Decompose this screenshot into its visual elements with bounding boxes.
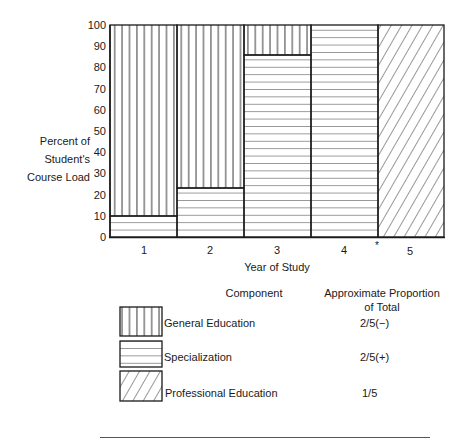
bar-segment-specialization bbox=[244, 55, 311, 237]
legend-proportion: 2/5(+) bbox=[360, 351, 389, 363]
y-label-line-3: Course Load bbox=[27, 171, 90, 183]
y-tick: 10 bbox=[94, 210, 106, 222]
legend-label: General Education bbox=[164, 317, 255, 329]
legend-header-proportion-line-1: Approximate Proportion bbox=[324, 287, 440, 299]
legend-entry-specialization: Specialization 2/5(+) bbox=[120, 341, 389, 367]
x-tick: 1 bbox=[141, 244, 147, 256]
legend-label: Specialization bbox=[164, 351, 232, 363]
bars bbox=[110, 25, 444, 237]
bar-segment-specialization bbox=[110, 216, 177, 237]
chart-figure: Percent of Student's Course Load 0 10 20… bbox=[0, 0, 456, 441]
legend-header-proportion-line-2: of Total bbox=[364, 301, 399, 313]
y-tick: 100 bbox=[88, 19, 106, 31]
legend-header-component: Component bbox=[226, 287, 283, 299]
bar-segment-professional-education bbox=[378, 25, 444, 237]
y-tick: 50 bbox=[94, 125, 106, 137]
legend-proportion: 2/5(−) bbox=[360, 317, 389, 329]
bar-segment-general-education bbox=[110, 25, 177, 216]
y-tick: 90 bbox=[94, 40, 106, 52]
y-tick: 20 bbox=[94, 189, 106, 201]
x-tick: 4 bbox=[341, 244, 347, 256]
bar-year-2 bbox=[177, 25, 244, 237]
legend: Component Approximate Proportion of Tota… bbox=[120, 287, 440, 401]
legend-label: Professional Education bbox=[165, 387, 278, 399]
legend-swatch-vertical-lines bbox=[120, 307, 162, 336]
bar-year-1 bbox=[110, 25, 177, 237]
y-tick: 70 bbox=[94, 83, 106, 95]
x-tick: 5 bbox=[407, 245, 413, 257]
bar-year-5 bbox=[378, 25, 444, 237]
y-label-line-2: Student's bbox=[44, 153, 90, 165]
y-label-line-1: Percent of bbox=[40, 135, 91, 147]
x-axis-label: Year of Study bbox=[244, 261, 310, 273]
x-tick: 2 bbox=[207, 244, 213, 256]
bar-segment-specialization bbox=[311, 25, 378, 237]
asterisk-annotation: * bbox=[375, 240, 379, 251]
legend-proportion: 1/5 bbox=[362, 387, 377, 399]
bar-year-4 bbox=[311, 25, 378, 237]
legend-entry-general-education: General Education 2/5(−) bbox=[120, 307, 389, 336]
y-axis-label: Percent of Student's Course Load bbox=[27, 135, 91, 183]
y-axis-ticks: 0 10 20 30 40 50 60 70 80 90 100 bbox=[88, 19, 106, 243]
legend-swatch-horizontal-lines bbox=[120, 341, 162, 367]
y-tick: 40 bbox=[94, 146, 106, 158]
legend-swatch-diagonal-lines bbox=[120, 371, 162, 401]
legend-entry-professional-education: Professional Education 1/5 bbox=[120, 371, 377, 401]
bar-segment-general-education bbox=[177, 25, 244, 188]
y-tick: 30 bbox=[94, 167, 106, 179]
y-tick: 80 bbox=[94, 61, 106, 73]
bar-year-3 bbox=[244, 25, 311, 237]
y-tick: 60 bbox=[94, 104, 106, 116]
x-axis-ticks: 1 2 3 4 5 bbox=[141, 244, 413, 257]
bar-segment-specialization bbox=[177, 188, 244, 237]
y-tick: 0 bbox=[100, 231, 106, 243]
x-tick: 3 bbox=[274, 244, 280, 256]
bar-segment-general-education bbox=[244, 25, 311, 55]
